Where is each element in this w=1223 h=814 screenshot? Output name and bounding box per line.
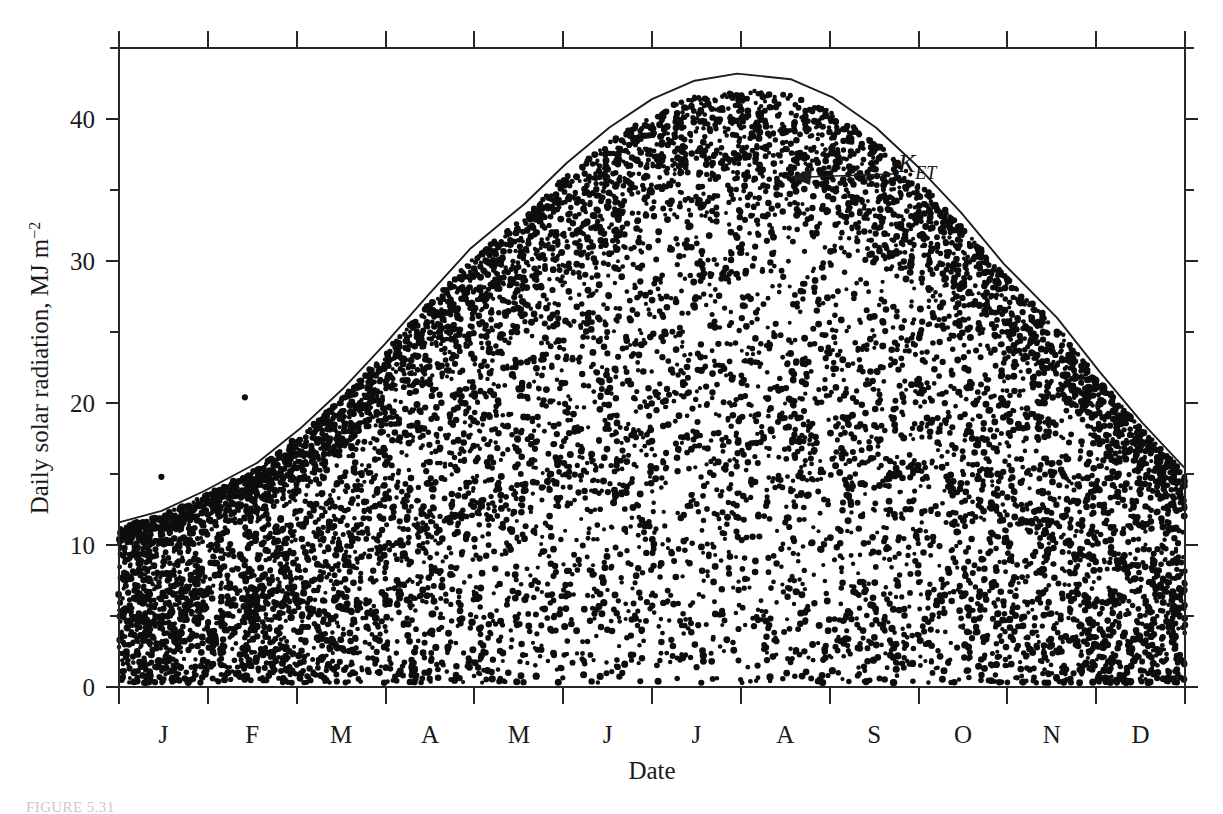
scatter-point	[997, 518, 1003, 524]
scatter-point	[167, 561, 172, 566]
scatter-point	[721, 449, 726, 454]
scatter-point	[336, 542, 342, 548]
scatter-point	[386, 433, 390, 437]
scatter-point	[412, 390, 416, 394]
scatter-point	[927, 428, 934, 435]
scatter-point	[846, 206, 852, 212]
scatter-point	[1040, 331, 1045, 336]
scatter-point	[358, 571, 363, 576]
scatter-point	[198, 518, 203, 523]
scatter-point	[646, 439, 652, 445]
scatter-point	[427, 329, 433, 335]
scatter-point	[154, 584, 159, 589]
scatter-point	[713, 287, 718, 292]
scatter-point	[1105, 510, 1111, 516]
scatter-point	[798, 309, 803, 314]
scatter-point	[947, 430, 953, 436]
scatter-point	[266, 577, 271, 582]
scatter-point	[516, 621, 522, 627]
scatter-point	[346, 530, 351, 535]
scatter-point	[379, 527, 385, 533]
scatter-point	[580, 639, 585, 644]
scatter-point	[127, 529, 132, 534]
scatter-point	[749, 124, 755, 130]
scatter-point	[364, 468, 369, 473]
scatter-point	[892, 555, 897, 560]
scatter-point	[924, 529, 929, 534]
scatter-point	[142, 629, 149, 636]
scatter-point	[1023, 519, 1030, 526]
scatter-point	[803, 392, 807, 396]
scatter-point	[877, 303, 882, 308]
scatter-point	[620, 264, 625, 269]
scatter-point	[829, 456, 835, 462]
scatter-point	[962, 411, 968, 417]
scatter-point	[862, 410, 869, 417]
scatter-point	[1154, 653, 1159, 658]
scatter-point	[200, 570, 205, 575]
scatter-point	[295, 563, 301, 569]
scatter-point	[582, 282, 586, 286]
scatter-point	[850, 449, 856, 455]
scatter-point	[454, 529, 461, 536]
scatter-point	[818, 511, 823, 516]
scatter-point	[792, 455, 798, 461]
scatter-point	[1177, 615, 1182, 620]
scatter-point	[631, 351, 637, 357]
scatter-point	[1038, 414, 1044, 420]
scatter-point	[447, 284, 454, 291]
scatter-point	[1029, 630, 1035, 636]
scatter-point	[578, 238, 582, 242]
scatter-point	[925, 322, 930, 327]
scatter-point	[1112, 601, 1119, 608]
scatter-point	[703, 355, 708, 360]
scatter-point	[283, 666, 289, 672]
scatter-point	[819, 264, 826, 271]
scatter-point	[687, 131, 693, 137]
scatter-point	[614, 438, 620, 444]
scatter-point	[271, 468, 275, 472]
scatter-point	[520, 277, 527, 284]
scatter-point	[678, 169, 685, 176]
scatter-point	[1039, 310, 1046, 317]
scatter-point	[967, 302, 972, 307]
scatter-point	[711, 637, 716, 642]
scatter-point	[319, 490, 326, 497]
scatter-point	[562, 380, 568, 386]
scatter-point	[314, 429, 318, 433]
scatter-point	[821, 646, 828, 653]
scatter-point	[376, 562, 381, 567]
scatter-point	[246, 542, 251, 547]
scatter-point	[833, 341, 838, 346]
scatter-point	[1056, 459, 1062, 465]
scatter-point	[459, 399, 466, 406]
scatter-point	[1101, 632, 1107, 638]
scatter-point	[620, 345, 626, 351]
scatter-point	[1058, 467, 1065, 474]
scatter-point	[648, 425, 653, 430]
scatter-point	[131, 660, 136, 665]
scatter-point	[510, 323, 515, 328]
scatter-point	[1165, 590, 1170, 595]
scatter-point	[604, 548, 609, 553]
scatter-point	[539, 644, 543, 648]
scatter-point	[1125, 539, 1131, 545]
scatter-point	[430, 342, 434, 346]
scatter-point	[271, 599, 276, 604]
scatter-point	[952, 524, 956, 528]
scatter-point	[534, 631, 539, 636]
scatter-point	[455, 344, 461, 350]
scatter-point	[520, 652, 526, 658]
scatter-point	[215, 537, 220, 542]
scatter-point	[356, 478, 360, 482]
scatter-point	[334, 463, 339, 468]
scatter-point	[904, 344, 909, 349]
scatter-point	[347, 555, 351, 559]
scatter-point	[995, 492, 1001, 498]
scatter-point	[562, 318, 569, 325]
scatter-point	[1171, 535, 1177, 541]
scatter-point	[1064, 507, 1071, 514]
scatter-point	[907, 204, 912, 209]
scatter-point	[204, 510, 210, 516]
scatter-point	[399, 450, 404, 455]
